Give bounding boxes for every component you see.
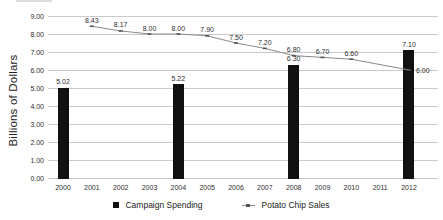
y-tick-label: 9.00 bbox=[30, 13, 44, 20]
line-data-label: 6.00 bbox=[416, 67, 430, 74]
x-tick-label: 2004 bbox=[171, 184, 187, 191]
line-data-label: 7.20 bbox=[258, 39, 272, 46]
legend-item-potato-chip-sales: Potato Chip Sales bbox=[242, 200, 329, 210]
bar-campaign-spending bbox=[288, 65, 299, 179]
y-tick-label: 0.00 bbox=[30, 175, 44, 182]
line-data-label: 6.70 bbox=[316, 48, 330, 55]
line-potato-chip-sales bbox=[92, 26, 409, 70]
line-data-label: 6.80 bbox=[287, 46, 301, 53]
x-tick-label: 2002 bbox=[113, 184, 129, 191]
line-data-label: 8.00 bbox=[172, 25, 186, 32]
bar-data-label: 5.02 bbox=[56, 78, 70, 85]
line-data-label: 6.60 bbox=[345, 50, 359, 57]
legend: Campaign Spending Potato Chip Sales bbox=[0, 198, 443, 212]
y-tick-label: 2.00 bbox=[30, 139, 44, 146]
x-tick-label: 2003 bbox=[142, 184, 158, 191]
line-data-label: 7.90 bbox=[200, 26, 214, 33]
bar-data-label: 7.10 bbox=[402, 41, 416, 48]
plot-area: 0.001.002.003.004.005.006.007.008.009.00… bbox=[0, 0, 443, 220]
x-tick-label: 2012 bbox=[401, 184, 417, 191]
y-tick-label: 7.00 bbox=[30, 49, 44, 56]
chart-canvas: Billions of Dollars 0.001.002.003.004.00… bbox=[0, 0, 443, 220]
bar-data-label: 5.22 bbox=[172, 75, 186, 82]
x-tick-label: 2007 bbox=[257, 184, 273, 191]
legend-label-campaign-spending: Campaign Spending bbox=[125, 200, 202, 210]
legend-label-potato-chip-sales: Potato Chip Sales bbox=[261, 200, 329, 210]
bar-campaign-spending bbox=[173, 84, 184, 179]
y-tick-label: 8.00 bbox=[30, 31, 44, 38]
line-data-label: 8.00 bbox=[143, 25, 157, 32]
y-tick-label: 5.00 bbox=[30, 85, 44, 92]
line-data-label: 7.50 bbox=[229, 34, 243, 41]
line-data-label: 8.43 bbox=[85, 17, 99, 24]
line-data-label: 8.17 bbox=[114, 21, 128, 28]
x-tick-label: 2000 bbox=[55, 184, 71, 191]
x-tick-label: 2008 bbox=[286, 184, 302, 191]
bar-campaign-spending bbox=[58, 88, 69, 179]
legend-item-campaign-spending: Campaign Spending bbox=[113, 200, 202, 210]
bar-data-label: 6.30 bbox=[287, 55, 301, 62]
y-tick-label: 1.00 bbox=[30, 157, 44, 164]
black-square-icon bbox=[113, 202, 119, 208]
y-tick-label: 6.00 bbox=[30, 67, 44, 74]
x-tick-label: 2010 bbox=[344, 184, 360, 191]
line-dash-icon bbox=[242, 205, 255, 206]
x-tick-label: 2009 bbox=[315, 184, 331, 191]
y-tick-label: 3.00 bbox=[30, 121, 44, 128]
x-tick-label: 2001 bbox=[84, 184, 100, 191]
x-tick-label: 2011 bbox=[373, 184, 388, 191]
x-tick-label: 2006 bbox=[228, 184, 244, 191]
x-tick-label: 2005 bbox=[199, 184, 215, 191]
y-tick-label: 4.00 bbox=[30, 103, 44, 110]
